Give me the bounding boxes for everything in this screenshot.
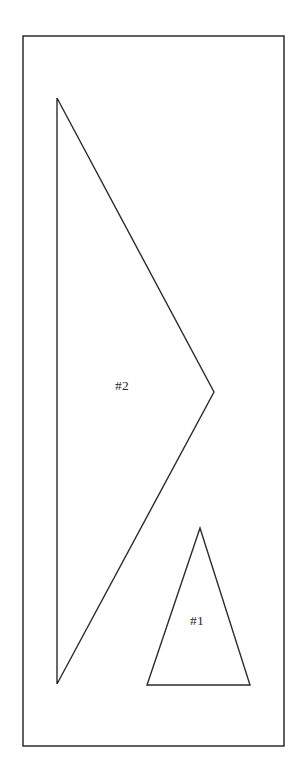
geometry-figure: #2 #1 <box>0 0 306 783</box>
shape-2-label: #2 <box>115 378 129 393</box>
shape-1-label: #1 <box>190 613 204 628</box>
figure-canvas: #2 #1 <box>0 0 306 783</box>
